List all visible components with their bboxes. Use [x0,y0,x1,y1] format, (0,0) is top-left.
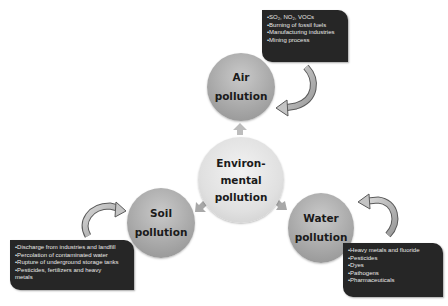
curved-arrow-soil-icon [85,202,126,236]
air-sources-list: SO₂, NO₂, VOCs Burning of fossil fuels M… [267,14,343,44]
soil-node-subtitle: pollution [135,223,188,242]
water-sources-list: Heavy metals and fluoride Pesticides Dye… [348,247,438,285]
soil-node-title: Soil [150,204,172,223]
air-node-subtitle: pollution [215,87,268,106]
air-source-item: SO₂, NO₂, VOCs [267,14,343,22]
arrow-center-to-air-icon [233,123,247,135]
water-source-item: Heavy metals and fluoride [348,247,438,255]
soil-sources-box: Discharge from industries and landfill P… [10,240,134,290]
environmental-pollution-diagram: Air pollution SO₂, NO₂, VOCs Burning of … [0,0,448,306]
air-source-item: Burning of fossil fuels [267,22,343,30]
soil-source-item: Discharge from industries and landfill [15,244,129,252]
air-sources-box: SO₂, NO₂, VOCs Burning of fossil fuels M… [262,10,348,62]
soil-sources-list: Discharge from industries and landfill P… [15,244,129,282]
soil-source-item: Rupture of underground storage tanks [15,259,129,267]
center-node-line-3: pollution [215,189,268,206]
curved-arrow-air-icon [276,67,313,116]
air-source-item: Mining process [267,37,343,45]
water-source-item: Pathogens [348,270,438,278]
air-node-title: Air [233,68,250,87]
soil-source-item: Percolation of contaminated water [15,252,129,260]
soil-source-item: Pesticides, fertilizers and heavy [15,267,129,275]
center-node-line-1: Environ- [216,155,265,172]
environmental-pollution-center-node: Environ- mental pollution [198,137,284,223]
soil-source-item-continued: metals [15,274,129,282]
air-source-item: Manufacturing industries [267,29,343,37]
soil-pollution-node: Soil pollution [127,188,195,258]
water-node-title: Water [303,209,339,228]
water-source-item: Dyes [348,262,438,270]
curved-arrow-water-icon [358,194,395,235]
air-pollution-node: Air pollution [207,53,275,121]
water-source-item: Pesticides [348,255,438,263]
center-node-line-2: mental [220,172,261,189]
water-sources-box: Heavy metals and fluoride Pesticides Dye… [343,243,443,297]
water-node-subtitle: pollution [295,228,348,247]
water-source-item: Pharmaceuticals [348,277,438,285]
